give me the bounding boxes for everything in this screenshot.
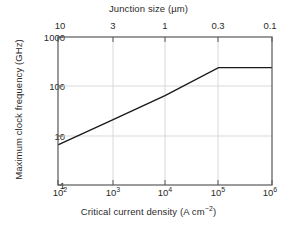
top-axis-ticks bbox=[58, 37, 272, 42]
left-axis-ticks bbox=[58, 37, 63, 185]
gridlines bbox=[58, 37, 272, 185]
plot-area bbox=[0, 0, 297, 227]
chart-figure: Junction size (µm) 10 3 1 0.3 0.1 Maximu… bbox=[0, 0, 297, 227]
bottom-axis-ticks bbox=[58, 180, 272, 185]
